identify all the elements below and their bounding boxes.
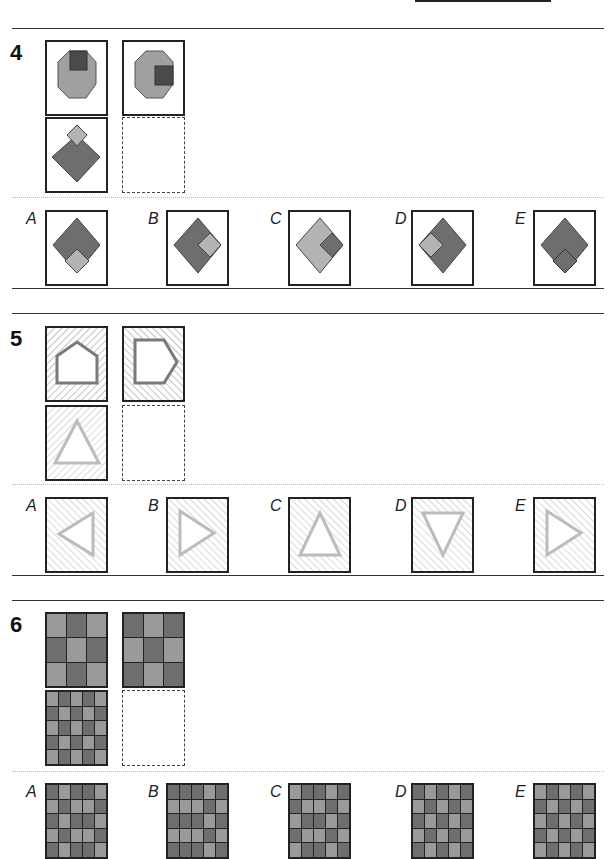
section-divider	[12, 575, 604, 576]
question-number: 5	[10, 326, 22, 352]
question-number: 4	[10, 40, 22, 66]
q6-option-a[interactable]	[45, 783, 108, 859]
grid-5x5	[168, 785, 227, 857]
q4-matrix-cell-3	[45, 117, 108, 193]
triangle-up-icon	[290, 499, 350, 571]
diamond-icon	[535, 212, 595, 284]
q4-answer-blank	[122, 117, 185, 193]
q6-answer-blank	[122, 690, 185, 766]
section-divider	[12, 313, 604, 314]
grid-5x5	[47, 785, 106, 857]
option-label: B	[148, 783, 159, 801]
option-label: E	[515, 497, 526, 515]
q5-option-e[interactable]	[533, 497, 596, 573]
grid-5x5	[535, 785, 594, 857]
pentagon-icon	[47, 328, 107, 400]
grid-3x3	[124, 614, 183, 686]
section-divider	[12, 288, 604, 289]
q6-matrix-cell-2	[122, 612, 185, 688]
option-label: D	[395, 210, 407, 228]
grid-5x5	[47, 692, 106, 764]
triangle-right-icon	[168, 499, 228, 571]
triangle-right-icon	[535, 499, 595, 571]
option-label: A	[26, 210, 37, 228]
options-divider	[12, 197, 604, 198]
triangle-down-icon	[413, 499, 473, 571]
option-label: B	[148, 210, 159, 228]
q5-matrix-cell-2	[122, 326, 185, 402]
octagon-icon	[124, 42, 184, 114]
header-box	[415, 0, 551, 2]
option-label: C	[270, 497, 282, 515]
octagon-icon	[47, 42, 107, 114]
q5-option-a[interactable]	[45, 497, 108, 573]
option-label: A	[26, 783, 37, 801]
option-label: E	[515, 210, 526, 228]
q4-option-e[interactable]	[533, 210, 596, 286]
q5-option-b[interactable]	[166, 497, 229, 573]
grid-5x5	[413, 785, 472, 857]
q6-matrix-cell-3	[45, 690, 108, 766]
q4-option-d[interactable]	[411, 210, 474, 286]
section-divider	[12, 28, 604, 29]
q6-matrix-cell-1	[45, 612, 108, 688]
pentagon-icon	[124, 328, 184, 400]
q4-option-c[interactable]	[288, 210, 351, 286]
option-label: D	[395, 783, 407, 801]
option-label: A	[26, 497, 37, 515]
q5-answer-blank	[122, 405, 185, 481]
options-divider	[12, 771, 604, 772]
q4-option-a[interactable]	[45, 210, 108, 286]
q6-option-d[interactable]	[411, 783, 474, 859]
section-divider	[12, 600, 604, 601]
q6-option-c[interactable]	[288, 783, 351, 859]
option-label: D	[395, 497, 407, 515]
diamond-icon	[413, 212, 473, 284]
triangle-icon	[47, 407, 107, 479]
diamond-icon	[47, 212, 107, 284]
options-divider	[12, 484, 604, 485]
q4-matrix-cell-2	[122, 40, 185, 116]
question-number: 6	[10, 612, 22, 638]
q5-matrix-cell-1	[45, 326, 108, 402]
q6-option-e[interactable]	[533, 783, 596, 859]
grid-5x5	[290, 785, 349, 857]
option-label: C	[270, 210, 282, 228]
q4-option-b[interactable]	[166, 210, 229, 286]
grid-3x3	[47, 614, 106, 686]
q5-option-c[interactable]	[288, 497, 351, 573]
diamond-icon	[290, 212, 350, 284]
q5-option-d[interactable]	[411, 497, 474, 573]
q4-matrix-cell-1	[45, 40, 108, 116]
option-label: C	[270, 783, 282, 801]
q6-option-b[interactable]	[166, 783, 229, 859]
option-label: B	[148, 497, 159, 515]
diamond-icon	[168, 212, 228, 284]
q5-matrix-cell-3	[45, 405, 108, 481]
triangle-left-icon	[47, 499, 107, 571]
diamond-icon	[47, 119, 107, 191]
option-label: E	[515, 783, 526, 801]
